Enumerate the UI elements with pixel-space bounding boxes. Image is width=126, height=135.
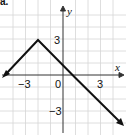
graph-plot: x y −3 0 3 3 −3 xyxy=(0,0,126,135)
axes xyxy=(2,6,124,133)
x-axis-arrow-icon xyxy=(119,73,124,78)
y-axis-arrow-icon xyxy=(61,6,66,11)
x-axis-label: x xyxy=(114,61,120,73)
y-tick-neg3: −3 xyxy=(49,105,62,117)
x-tick-3: 3 xyxy=(97,78,103,90)
x-tick-neg3: −3 xyxy=(18,78,31,90)
y-axis-label: y xyxy=(66,5,72,17)
y-tick-3: 3 xyxy=(54,34,60,46)
x-tick-0: 0 xyxy=(55,78,61,90)
